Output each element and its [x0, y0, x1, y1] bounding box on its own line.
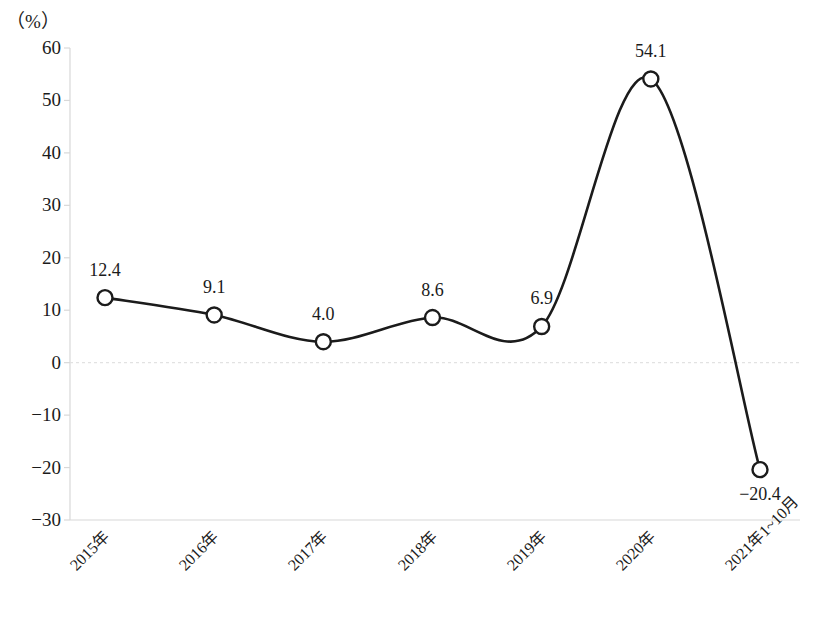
y-axis-tick-label: 40	[10, 142, 61, 164]
chart-container: （%） 6050403020100−10−20−30 2015年2016年201…	[0, 0, 813, 617]
y-axis-tick-label: 0	[10, 352, 61, 374]
data-point-label: 9.1	[203, 277, 226, 298]
y-axis-tick-label: 50	[10, 89, 61, 111]
data-point-label: −20.4	[739, 484, 781, 505]
series-line	[105, 77, 760, 469]
data-point-label: 12.4	[89, 260, 121, 281]
y-axis-tick-label: −30	[10, 509, 61, 531]
data-point-label: 54.1	[635, 41, 667, 62]
data-point-label: 8.6	[421, 280, 444, 301]
y-axis-tick-label: 20	[10, 247, 61, 269]
y-axis-tick-label: 60	[10, 37, 61, 59]
y-axis-tick-label: −10	[10, 404, 61, 426]
y-axis-tick-label: 10	[10, 299, 61, 321]
data-point-label: 6.9	[530, 288, 553, 309]
series-markers	[98, 71, 768, 477]
y-axis-tick-label: 30	[10, 194, 61, 216]
y-axis-tick-label: −20	[10, 457, 61, 479]
chart-canvas	[0, 0, 813, 617]
data-point-label: 4.0	[312, 304, 335, 325]
y-axis-unit-label: （%）	[6, 6, 60, 33]
